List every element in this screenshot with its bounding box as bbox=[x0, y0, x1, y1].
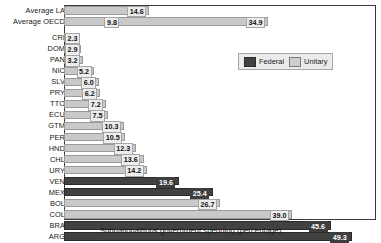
category-label: ECU bbox=[5, 109, 65, 120]
bar-row: CRI2.3 bbox=[0, 32, 381, 43]
category-label: COL bbox=[5, 209, 65, 220]
bar-track: 12.3 bbox=[64, 143, 376, 154]
category-label: Average LA bbox=[5, 5, 65, 16]
category-label: NIC bbox=[5, 65, 65, 76]
legend-item-unitary: Unitary bbox=[289, 57, 327, 67]
bar-row: URY14.2 bbox=[0, 165, 381, 176]
category-label: URY bbox=[5, 165, 65, 176]
bar-track: 7.5 bbox=[64, 109, 376, 120]
bar-row: TTO7.2 bbox=[0, 98, 381, 109]
category-label: BOL bbox=[5, 198, 65, 209]
bar-track: 19.6 bbox=[64, 176, 376, 187]
chart-legend: Federal Unitary bbox=[238, 53, 333, 70]
bar-row: MEX25.4 bbox=[0, 187, 381, 198]
bar-track: 34.99.8 bbox=[64, 16, 376, 27]
bar-track: 14.2 bbox=[64, 165, 376, 176]
category-label: PAN bbox=[5, 54, 65, 65]
legend-label-federal: Federal bbox=[259, 57, 284, 66]
legend-label-unitary: Unitary bbox=[304, 57, 327, 66]
category-label: PER bbox=[5, 132, 65, 143]
bar-track: 25.4 bbox=[64, 187, 376, 198]
bar-track: 2.3 bbox=[64, 32, 376, 43]
bar-track: 10.5 bbox=[64, 132, 376, 143]
category-label: MEX bbox=[5, 187, 65, 198]
bar-unitary bbox=[64, 199, 220, 207]
bar-track: 39.0 bbox=[64, 209, 376, 220]
bar-row: Average OECD34.99.8 bbox=[0, 16, 381, 27]
bar-row: PRY6.2 bbox=[0, 87, 381, 98]
bar-row: PER10.5 bbox=[0, 132, 381, 143]
x-axis-caption: Subnational/total government spending (p… bbox=[0, 226, 381, 235]
bar-track: 6.2 bbox=[64, 87, 376, 98]
bar-row: Average LA14.6 bbox=[0, 5, 381, 16]
bar-unitary bbox=[64, 17, 268, 25]
bar-track: 13.6 bbox=[64, 154, 376, 165]
bar-track: 7.2 bbox=[64, 98, 376, 109]
bar-row: HND12.3 bbox=[0, 143, 381, 154]
bar-row: BOL26.7 bbox=[0, 198, 381, 209]
legend-swatch-unitary bbox=[289, 57, 301, 67]
category-label: VEN bbox=[5, 176, 65, 187]
category-label: CRI bbox=[5, 32, 65, 43]
bar-row: SLV6.0 bbox=[0, 76, 381, 87]
bar-row: GTM10.3 bbox=[0, 120, 381, 131]
category-label: HND bbox=[5, 143, 65, 154]
legend-item-federal: Federal bbox=[244, 57, 284, 67]
bar-track: 14.6 bbox=[64, 5, 376, 16]
legend-swatch-federal bbox=[244, 57, 256, 67]
bar-row: VEN19.6 bbox=[0, 176, 381, 187]
category-label: Average OECD bbox=[5, 16, 65, 27]
category-label: SLV bbox=[5, 76, 65, 87]
bar-rows: Average LA14.6Average OECD34.99.8CRI2.3D… bbox=[0, 5, 381, 220]
bar-track: 6.0 bbox=[64, 76, 376, 87]
category-label: DOM bbox=[5, 43, 65, 54]
bar-track: 26.7 bbox=[64, 198, 376, 209]
bar-track: 10.3 bbox=[64, 120, 376, 131]
bar-row: ECU7.5 bbox=[0, 109, 381, 120]
category-label: GTM bbox=[5, 120, 65, 131]
category-label: CHL bbox=[5, 154, 65, 165]
bar-unitary bbox=[64, 210, 292, 218]
category-label: TTO bbox=[5, 98, 65, 109]
bar-row: CHL13.6 bbox=[0, 154, 381, 165]
bar-row: COL39.0 bbox=[0, 209, 381, 220]
category-label: PRY bbox=[5, 87, 65, 98]
